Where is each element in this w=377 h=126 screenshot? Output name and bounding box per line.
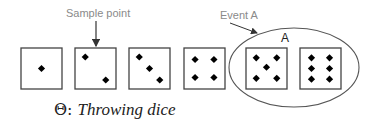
event-a-arrow <box>230 23 257 33</box>
caption: Θ: Throwing dice <box>54 100 176 120</box>
die-face-5 <box>246 48 287 89</box>
die-square <box>75 48 116 89</box>
theta-symbol: Θ: <box>54 100 78 119</box>
die-square <box>184 48 225 89</box>
die-face-6 <box>300 48 341 89</box>
dice-row <box>21 48 341 89</box>
die-face-1 <box>21 48 62 89</box>
die-face-3 <box>129 48 170 89</box>
event-a-label: Event A <box>220 9 259 21</box>
event-set-label: A <box>281 31 289 45</box>
die-face-4 <box>184 48 225 89</box>
die-square <box>300 48 341 89</box>
caption-text: Throwing dice <box>78 100 176 119</box>
die-face-2 <box>75 48 116 89</box>
sample-point-label: Sample point <box>66 7 130 19</box>
